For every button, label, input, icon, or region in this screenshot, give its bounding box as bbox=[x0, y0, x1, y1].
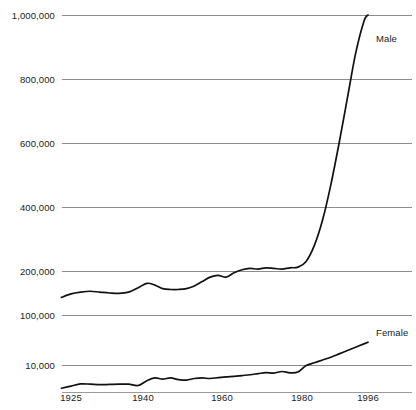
series-line-male bbox=[61, 15, 368, 297]
series-label-female: Female bbox=[376, 327, 408, 338]
chart-container: 1,000,000 800,000 600,000 400,000 200,00… bbox=[0, 0, 416, 410]
series-label-male: Male bbox=[376, 33, 397, 44]
chart-plot-area bbox=[0, 0, 416, 410]
series-line-female bbox=[61, 342, 368, 388]
